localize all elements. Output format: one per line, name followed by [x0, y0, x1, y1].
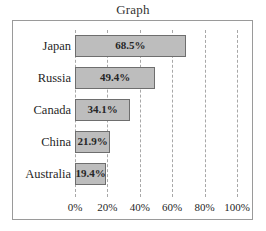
bar-category-label: Russia: [13, 67, 71, 89]
bar-row: Australia19.4%: [13, 163, 252, 185]
bar-category-label: China: [13, 131, 71, 153]
bar-value-label: 19.4%: [75, 163, 106, 185]
bar-row: Japan68.5%: [13, 35, 252, 57]
bar-row: Canada34.1%: [13, 99, 252, 121]
bar-category-label: Australia: [13, 163, 71, 185]
bar-value-label: 34.1%: [75, 99, 130, 121]
bar-value-label: 49.4%: [75, 67, 155, 89]
plot-area: Japan68.5%Russia49.4%Canada34.1%China21.…: [12, 20, 253, 220]
bars-layer: Japan68.5%Russia49.4%Canada34.1%China21.…: [13, 21, 252, 219]
bar-value-label: 21.9%: [75, 131, 110, 153]
x-tick-label: 100%: [217, 199, 257, 215]
bar-row: Russia49.4%: [13, 67, 252, 89]
bar-value-label: 68.5%: [75, 35, 186, 57]
bar-category-label: Canada: [13, 99, 71, 121]
bar-chart: Graph Japan68.5%Russia49.4%Canada34.1%Ch…: [0, 0, 266, 231]
x-axis-tick-labels: 0%20%40%60%80%100%: [13, 199, 252, 217]
chart-title: Graph: [12, 2, 254, 18]
bar-category-label: Japan: [13, 35, 71, 57]
bar-row: China21.9%: [13, 131, 252, 153]
